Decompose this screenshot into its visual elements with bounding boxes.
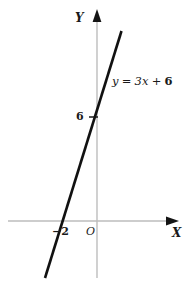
x-axis-label: X: [172, 227, 181, 239]
x-tick-label-minus-2: −2: [52, 226, 69, 237]
equation-lhs: y: [112, 74, 119, 88]
y-tick-label-6: 6: [76, 111, 84, 122]
x-axis-arrow-icon: [166, 217, 179, 226]
line-graph-figure: Y X O 6 −2 y=3x+6: [0, 0, 191, 287]
function-line: [45, 31, 122, 278]
equation-equals: =: [122, 74, 132, 88]
plot-canvas: [0, 0, 191, 287]
equation-slope-term: 3x: [135, 74, 149, 88]
y-axis-label: Y: [75, 12, 84, 24]
origin-label: O: [86, 226, 95, 237]
equation-annotation: y=3x+6: [112, 76, 173, 88]
y-axis-arrow-icon: [93, 9, 102, 22]
equation-intercept: 6: [165, 74, 173, 88]
equation-plus: +: [152, 74, 162, 88]
